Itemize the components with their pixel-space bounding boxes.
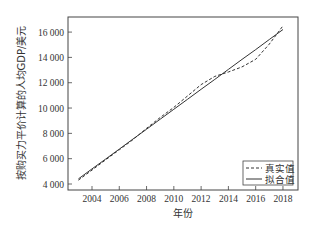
y-tick-label: 10 000 [38,104,64,114]
x-tick-label: 2012 [192,194,211,204]
legend: 真实值 拟合值 [243,161,295,185]
y-axis-ticks: 4 0006 0008 00010 00012 00014 00016 000 [38,28,72,190]
x-tick-label: 2008 [137,194,156,204]
y-tick-label: 8 000 [43,129,65,139]
x-tick-label: 2004 [83,194,102,204]
y-tick-label: 4 000 [43,180,65,190]
legend-label-fitted: 拟合值 [265,174,295,185]
y-tick-label: 6 000 [43,154,65,164]
y-axis-title: 按购买力平价计算的人均GDP/美元 [15,26,27,181]
y-tick-label: 14 000 [38,53,64,63]
fitted-value-line [78,30,283,179]
y-tick-label: 12 000 [38,78,64,88]
x-tick-label: 2006 [110,194,129,204]
x-tick-label: 2018 [273,194,292,204]
legend-label-true: 真实值 [265,163,295,174]
data-series [78,26,283,180]
x-tick-label: 2016 [246,194,265,204]
x-tick-label: 2014 [219,194,238,204]
x-axis-ticks: 20042006200820102012201420162018 [83,186,293,204]
x-tick-label: 2010 [164,194,183,204]
y-tick-label: 16 000 [38,28,64,38]
line-chart: 4 0006 0008 00010 00012 00014 00016 000 … [0,0,316,231]
x-axis-title: 年份 [173,207,193,219]
